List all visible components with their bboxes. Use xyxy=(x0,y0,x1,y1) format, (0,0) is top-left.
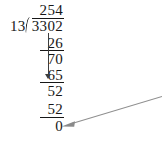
remainder-pointer-arrow-icon xyxy=(0,0,162,143)
long-division-figure: 254 13 3302 26 70 65 52 52 0 xyxy=(0,0,162,143)
